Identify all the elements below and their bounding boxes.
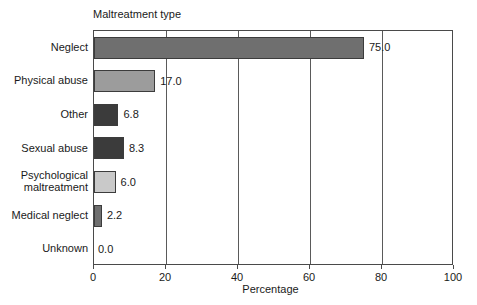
bar-row: 6.0 <box>94 165 452 199</box>
bar <box>94 104 118 126</box>
bar-row: 2.2 <box>94 199 452 233</box>
category-label-psychological-maltreatment: Psychological maltreatment <box>0 169 88 193</box>
x-axis-title-text: Percentage <box>242 283 298 295</box>
category-label-sexual-abuse: Sexual abuse <box>0 142 88 154</box>
bar-chart: Maltreatment type 75.017.06.88.36.02.20.… <box>0 0 477 305</box>
x-tick-label-0: 0 <box>90 271 96 283</box>
x-tick-mark-60 <box>309 265 310 269</box>
bar-row: 17.0 <box>94 65 452 99</box>
category-label-medical-neglect: Medical neglect <box>0 209 88 221</box>
bar <box>94 37 364 59</box>
x-tick-mark-0 <box>93 265 94 269</box>
x-tick-label-60: 60 <box>303 271 315 283</box>
x-tick-mark-100 <box>453 265 454 269</box>
x-axis-title: Percentage <box>0 283 477 295</box>
bar-value-label: 0.0 <box>98 244 113 255</box>
bar <box>94 70 155 92</box>
bar-value-label: 8.3 <box>129 143 144 154</box>
category-label-physical-abuse: Physical abuse <box>0 74 88 86</box>
bar-value-label: 6.8 <box>123 109 138 120</box>
x-axis-ticks: 020406080100 <box>0 265 477 285</box>
bar-row: 8.3 <box>94 132 452 166</box>
x-tick-mark-20 <box>165 265 166 269</box>
x-tick-label-100: 100 <box>444 271 462 283</box>
bar-value-label: 75.0 <box>369 42 390 53</box>
x-tick-label-40: 40 <box>231 271 243 283</box>
bar-value-label: 2.2 <box>107 210 122 221</box>
category-label-unknown: Unknown <box>0 242 88 254</box>
category-label-neglect: Neglect <box>0 41 88 53</box>
chart-title: Maltreatment type <box>93 8 181 21</box>
bar <box>94 205 102 227</box>
plot-area: 75.017.06.88.36.02.20.0 <box>93 30 453 265</box>
category-label-other: Other <box>0 108 88 120</box>
bar-rows: 75.017.06.88.36.02.20.0 <box>94 31 452 264</box>
x-tick-mark-40 <box>237 265 238 269</box>
bar-row: 0.0 <box>94 232 452 266</box>
category-axis-labels: NeglectPhysical abuseOtherSexual abusePs… <box>0 30 88 265</box>
x-tick-label-80: 80 <box>375 271 387 283</box>
bar-row: 75.0 <box>94 31 452 65</box>
bar-value-label: 17.0 <box>160 76 181 87</box>
x-tick-label-20: 20 <box>159 271 171 283</box>
bar-row: 6.8 <box>94 98 452 132</box>
bar <box>94 171 116 193</box>
x-tick-mark-80 <box>381 265 382 269</box>
bar-value-label: 6.0 <box>121 177 136 188</box>
bar <box>94 137 124 159</box>
